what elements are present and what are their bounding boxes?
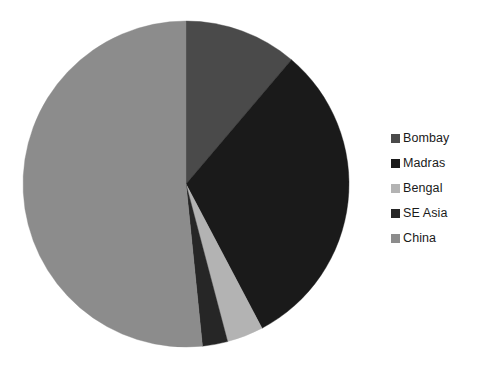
- legend-item-bombay[interactable]: Bombay: [391, 126, 477, 151]
- legend-label-se-asia: SE Asia: [403, 201, 447, 226]
- legend-swatch-icon-se-asia: [391, 209, 400, 218]
- pie-slice-china[interactable]: [23, 21, 202, 347]
- legend-item-se-asia[interactable]: SE Asia: [391, 201, 477, 226]
- legend-item-china[interactable]: China: [391, 226, 477, 251]
- legend-swatch-icon-madras: [391, 159, 400, 168]
- legend-swatch-icon-bombay: [391, 134, 400, 143]
- chart-legend: Bombay Madras Bengal SE Asia China: [391, 126, 477, 251]
- legend-label-madras: Madras: [403, 151, 445, 176]
- legend-item-madras[interactable]: Madras: [391, 151, 477, 176]
- pie-chart-figure: Bombay Madras Bengal SE Asia China: [0, 0, 478, 369]
- pie-slice-group: [23, 21, 349, 347]
- legend-label-bombay: Bombay: [403, 126, 449, 151]
- legend-label-china: China: [403, 226, 436, 251]
- legend-item-bengal[interactable]: Bengal: [391, 176, 477, 201]
- legend-swatch-icon-china: [391, 234, 400, 243]
- legend-swatch-icon-bengal: [391, 184, 400, 193]
- legend-label-bengal: Bengal: [403, 176, 443, 201]
